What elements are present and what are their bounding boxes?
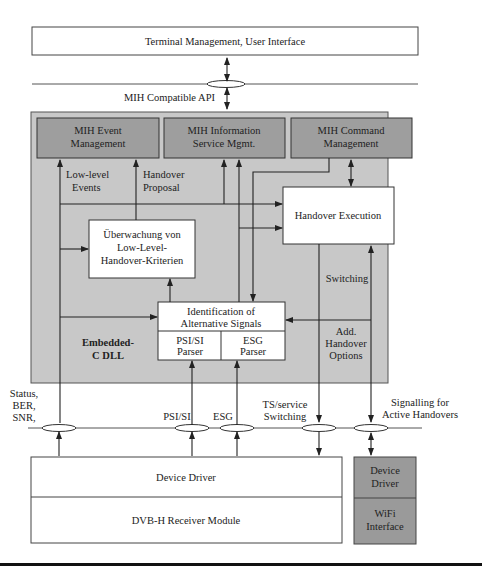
status-label-3: SNR, (12, 412, 35, 423)
identification-line2: Alternative Signals (181, 318, 262, 329)
driver-bus (28, 425, 422, 432)
terminal-management-label: Terminal Management, User Interface (145, 36, 306, 47)
wifi-device-driver-line1: Device (370, 465, 400, 476)
handover-execution-box: Handover Execution (283, 187, 394, 244)
handover-execution-label: Handover Execution (295, 210, 382, 221)
mih-api-bus: MIH Compatible API (32, 58, 418, 109)
psisi-parser-line1: PSI/SI (176, 335, 204, 346)
ts-switching-label-2: Switching (264, 411, 307, 422)
mih-command-management-box: MIH Command Management (291, 118, 412, 158)
mih-info-line1: MIH Information (187, 125, 261, 136)
psisi-parser-line2: Parser (177, 346, 204, 357)
esg-parser-line2: Parser (240, 346, 267, 357)
status-label-1: Status, (10, 388, 38, 399)
esg-label: ESG (213, 411, 233, 422)
ts-switching-label-1: TS/service (263, 399, 308, 410)
wifi-device-driver-line2: Driver (371, 478, 399, 489)
low-level-events-label-1: Low-level (66, 169, 109, 180)
signalling-label-1: Signalling for (391, 397, 450, 408)
psisi-label: PSI/SI (163, 411, 191, 422)
ueberwachung-box: Überwachung von Low-Level- Handover-Krit… (89, 220, 195, 278)
mih-info-line2: Service Mgmt. (193, 138, 255, 149)
mih-api-label: MIH Compatible API (124, 92, 216, 103)
wifi-interface-line2: Interface (366, 521, 404, 532)
add-options-label-2: Handover (325, 338, 367, 349)
identification-box: Identification of Alternative Signals PS… (158, 302, 285, 360)
device-driver-label: Device Driver (156, 472, 216, 483)
esg-parser-line1: ESG (243, 335, 263, 346)
ueberwachung-line1: Überwachung von (103, 229, 181, 240)
mih-command-line2: Management (324, 138, 379, 149)
low-level-events-label-2: Events (72, 182, 101, 193)
terminal-management-box: Terminal Management, User Interface (32, 27, 418, 55)
ueberwachung-line3: Handover-Kriterien (101, 255, 184, 266)
mih-information-service-box: MIH Information Service Mgmt. (164, 118, 285, 158)
handover-proposal-label-1: Handover (143, 169, 185, 180)
dvb-h-receiver-label: DVB-H Receiver Module (132, 515, 241, 526)
wifi-interface-line1: WiFi (374, 508, 395, 519)
wifi-driver-stack: Device Driver WiFi Interface (354, 457, 416, 544)
switching-label: Switching (326, 273, 369, 284)
ueberwachung-line2: Low-Level- (117, 242, 168, 253)
mih-event-line2: Management (71, 138, 126, 149)
bottom-rule (0, 563, 482, 566)
add-options-label-1: Add. (336, 326, 357, 337)
dvb-h-driver-stack: Device Driver DVB-H Receiver Module (31, 457, 342, 543)
mih-event-line1: MIH Event (74, 125, 122, 136)
signalling-label-2: Active Handovers (382, 409, 458, 420)
mih-event-management-box: MIH Event Management (37, 118, 159, 158)
add-options-label-3: Options (329, 350, 362, 361)
status-label-2: BER, (12, 400, 35, 411)
architecture-diagram: Terminal Management, User Interface MIH … (0, 0, 482, 572)
mih-command-line1: MIH Command (318, 125, 386, 136)
embedded-dll-label-1: Embedded- (82, 337, 134, 348)
embedded-dll-label-2: C DLL (92, 350, 124, 361)
handover-proposal-label-2: Proposal (143, 182, 180, 193)
identification-line1: Identification of (187, 306, 255, 317)
